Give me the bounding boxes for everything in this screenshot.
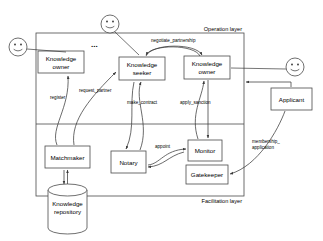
edge-label-request-partner: request_partner [79, 88, 112, 93]
node-knowledge-owner-left[interactable]: Knowledge owner [38, 51, 84, 73]
node-label-line1: Knowledge [127, 61, 158, 68]
edge-label-make-contract: make_contract [127, 100, 158, 105]
agent-architecture-diagram: Operation layer Facilitation layer ... K… [0, 0, 323, 241]
edge-request-partner [74, 72, 116, 145]
actor-right-icon [286, 58, 304, 76]
edge-label-membership-line2: application [252, 145, 274, 150]
node-label-line1: Applicant [279, 96, 305, 103]
node-knowledge-repository[interactable]: Knowledge repository [48, 184, 87, 234]
ellipsis-label: ... [91, 40, 98, 49]
edge-make-contract-up [139, 82, 143, 150]
edge-applicant-to-owner [246, 82, 291, 87]
node-label-line1: Gatekeeper [191, 171, 223, 178]
diagram-canvas: Operation layer Facilitation layer ... K… [0, 0, 323, 241]
node-label-line1: Matchmaker [50, 154, 84, 161]
actor-top-connector [115, 32, 139, 55]
edge-appoint-reverse [148, 152, 184, 167]
repository-label-line2: repository [54, 208, 82, 215]
actor-top-icon [101, 15, 119, 33]
repository-label-line1: Knowledge [52, 200, 83, 207]
node-notary[interactable]: Notary [111, 151, 146, 173]
node-label-line1: Monitor [195, 147, 216, 154]
node-label-line2: owner [199, 68, 216, 75]
node-knowledge-owner-right[interactable]: Knowledge owner [184, 56, 230, 79]
edge-label-negotiate-partnership: negotiate_partnership [151, 38, 196, 43]
edge-appoint-forward [148, 149, 186, 165]
node-applicant[interactable]: Applicant [271, 88, 312, 110]
node-label-line1: Notary [119, 159, 138, 166]
node-label-line2: seeker [133, 69, 152, 76]
edge-register [56, 76, 69, 145]
node-label-line1: Knowledge [46, 55, 77, 62]
edge-label-apply-sanction: apply_sanction [180, 100, 211, 105]
edge-label-membership-line1: membership_ [252, 139, 280, 144]
edge-make-contract-down [126, 82, 134, 149]
node-label-line2: owner [53, 63, 70, 70]
facilitation-layer-label: Facilitation layer [202, 198, 243, 204]
edge-label-appoint: appoint [155, 144, 171, 149]
operation-layer-label: Operation layer [204, 26, 242, 32]
edge-negotiate-partnership-forward [146, 46, 202, 56]
actor-right-connector [231, 68, 286, 69]
node-knowledge-seeker[interactable]: Knowledge seeker [119, 57, 165, 80]
node-monitor[interactable]: Monitor [188, 140, 222, 161]
node-gatekeeper[interactable]: Gatekeeper [186, 165, 228, 184]
node-matchmaker[interactable]: Matchmaker [45, 146, 90, 168]
edge-apply-sanction [195, 81, 204, 139]
node-label-line1: Knowledge [192, 60, 223, 67]
actor-left-icon [9, 38, 27, 56]
edge-label-register: register [50, 95, 66, 100]
